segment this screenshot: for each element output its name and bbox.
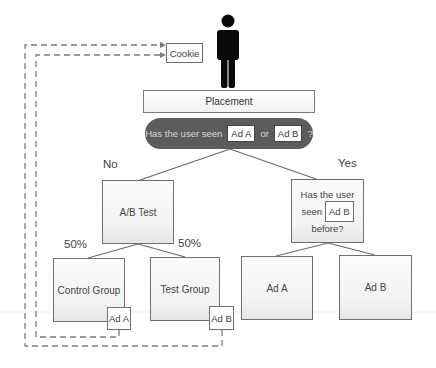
test-group-label: Test Group xyxy=(161,284,210,295)
outcome-ad-b-box: Ad B xyxy=(339,255,412,320)
placement-box: Placement xyxy=(143,90,315,113)
yes-branch-label: Yes xyxy=(338,157,357,169)
split-right-pct: 50% xyxy=(178,237,201,249)
decision-option-ad-a: Ad A xyxy=(227,125,255,142)
seen-question-line3: before? xyxy=(311,222,343,235)
outcome-ad-a-box: Ad A xyxy=(241,256,313,320)
person-icon xyxy=(217,15,239,89)
outcome-ad-b-label: Ad B xyxy=(365,282,387,293)
control-group-tag-label: Ad A xyxy=(109,313,129,324)
ab-test-label: A/B Test xyxy=(119,207,156,218)
seen-question-line2: seen Ad B xyxy=(301,201,353,222)
placement-label: Placement xyxy=(205,96,252,107)
cookie-box: Cookie xyxy=(166,43,203,63)
decision-prefix: Has the user seen xyxy=(145,128,222,139)
no-branch-label: No xyxy=(103,158,118,170)
control-group-label: Control Group xyxy=(58,285,121,296)
seen-question-line1: Has the user xyxy=(301,188,355,201)
seen-question-ad-b: Ad B xyxy=(325,201,354,222)
control-group-ad-a-tag: Ad A xyxy=(107,307,131,330)
no-branch-line xyxy=(140,149,230,180)
ab-test-box: A/B Test xyxy=(102,180,174,244)
seen-right-line xyxy=(328,243,375,255)
outcome-ad-a-label: Ad A xyxy=(266,283,287,294)
cookie-label: Cookie xyxy=(170,48,200,59)
decision-oval: Has the user seen Ad A or Ad B ? xyxy=(145,118,313,149)
decision-option-ad-b: Ad B xyxy=(274,125,303,142)
test-group-tag-label: Ad B xyxy=(211,313,232,324)
seen-question-seen: seen xyxy=(301,205,322,218)
seen-left-line xyxy=(276,243,328,256)
split-left-pct: 50% xyxy=(64,238,87,250)
decision-suffix: ? xyxy=(307,128,312,139)
test-group-ad-b-tag: Ad B xyxy=(209,306,234,330)
split-left-line xyxy=(88,244,138,258)
seen-question-box: Has the user seen Ad B before? xyxy=(291,179,364,243)
yes-branch-line xyxy=(230,149,316,179)
decision-connector: or xyxy=(260,128,268,139)
